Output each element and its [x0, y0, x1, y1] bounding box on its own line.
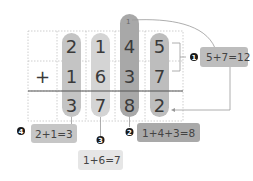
arrow-icon	[171, 108, 175, 112]
step-number: 3	[98, 137, 103, 145]
step-label: 1+6=7	[83, 154, 121, 166]
step-number: 1	[192, 54, 197, 62]
bottom-digit: 6	[95, 66, 106, 87]
top-digit: 5	[154, 36, 165, 57]
bottom-digit: 7	[154, 66, 165, 87]
top-digit: 1	[95, 36, 106, 57]
carry-mark: 1	[126, 18, 130, 26]
step-label: 1+4+3=8	[142, 127, 195, 139]
result-digit: 2	[154, 95, 165, 116]
addition-diagram: 1 2 1 4 5 + 1 6 3 7 3 7 8 2 1 5+7=12 2 1…	[0, 0, 253, 181]
top-digit: 2	[66, 36, 77, 57]
top-digit: 4	[124, 36, 135, 57]
result-digit: 8	[124, 95, 135, 116]
step-label: 5+7=12	[206, 51, 250, 63]
plus-sign: +	[35, 66, 50, 87]
step-number: 2	[127, 129, 132, 137]
result-digit: 7	[95, 95, 106, 116]
bottom-digit: 1	[66, 66, 77, 87]
step-number: 4	[19, 128, 24, 136]
bottom-digit: 3	[124, 66, 135, 87]
result-digit: 3	[66, 95, 77, 116]
step-label: 2+1=3	[35, 128, 73, 140]
